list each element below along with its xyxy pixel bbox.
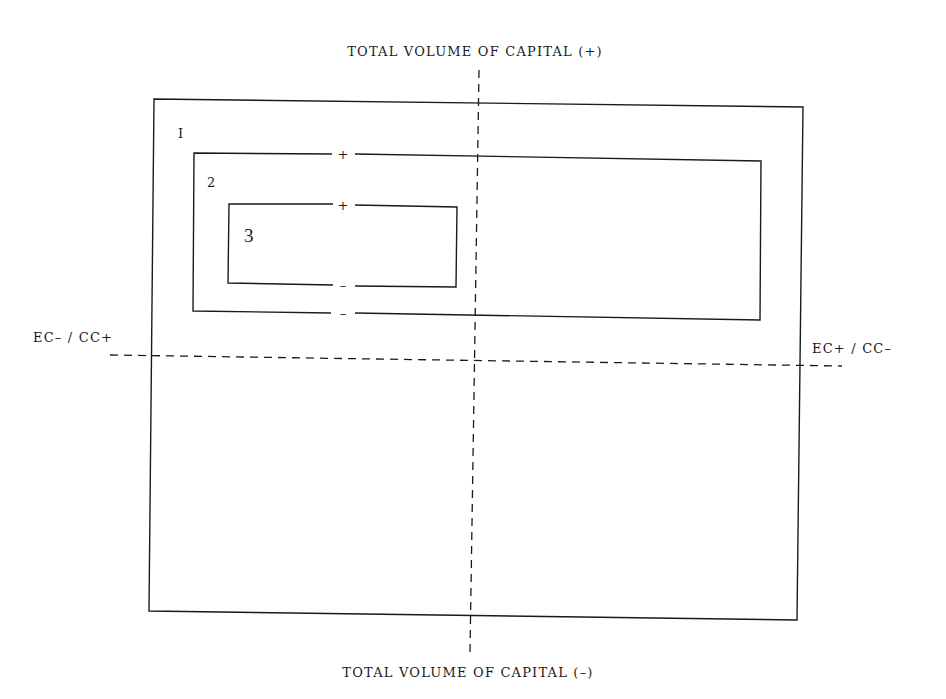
left-axis-label: EC– / CC+ [33, 330, 113, 345]
top-axis-label: TOTAL VOLUME OF CAPITAL (+) [347, 44, 603, 59]
box-3-label: 3 [244, 225, 254, 246]
right-axis-label: EC+ / CC– [812, 341, 892, 356]
field-box-1 [149, 99, 803, 620]
box-3-minus-sign: – [340, 278, 347, 293]
horizontal-axis [110, 355, 842, 366]
field-box-3 [228, 204, 457, 287]
box-1-label: I [178, 126, 183, 141]
box-2-minus-sign: – [340, 306, 347, 321]
bottom-axis-label: TOTAL VOLUME OF CAPITAL (–) [342, 665, 593, 680]
box-3-plus-sign: + [338, 198, 349, 213]
box-2-label: 2 [207, 175, 215, 190]
capital-field-diagram: I 2 3 + – + – TOTAL VOLUME OF CAPITAL (+… [0, 0, 946, 699]
box-2-plus-sign: + [338, 147, 349, 162]
field-box-2 [193, 153, 761, 320]
